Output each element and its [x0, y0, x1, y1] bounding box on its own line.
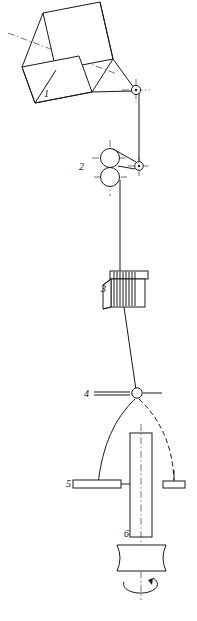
spindle-rotation-arrow [124, 578, 158, 593]
label-2: 2 [79, 161, 84, 172]
heater-body-box [111, 279, 145, 307]
yarn-segment-lower [92, 91, 132, 92]
spindle-whorl [117, 545, 166, 571]
ring-rail-left-plate [73, 480, 121, 488]
label-6: 6 [124, 528, 129, 539]
belt-lower [118, 166, 135, 169]
schematic-diagram: 1 2 3 4 5 6 [0, 0, 197, 621]
bobbin [130, 424, 152, 600]
feed-roller-pair [92, 140, 128, 196]
heater-coil-unit [103, 271, 148, 309]
schematic-canvas: 1 2 3 4 5 6 [0, 0, 197, 621]
label-5: 5 [66, 478, 71, 489]
guide-eye-ring [132, 388, 142, 398]
ring-rail-left-bracket [73, 480, 131, 488]
whorl-body [117, 545, 166, 571]
label-4: 4 [84, 388, 89, 399]
pulley-center [138, 165, 140, 167]
label-1: 1 [44, 88, 49, 99]
guide-eyelet-center [135, 89, 138, 92]
balloon-curve-left [98, 399, 135, 484]
supply-package [8, 2, 117, 103]
balloon-thread-guide [94, 388, 162, 398]
feed-roller-bottom [101, 168, 120, 187]
yarn-heater-to-guide [124, 307, 136, 390]
ring-rail-right-plate [163, 481, 185, 488]
ring-rail-right-traveler [163, 470, 185, 488]
label-3: 3 [100, 283, 106, 294]
package-edge-left [22, 13, 43, 67]
rotation-arrowhead [148, 578, 153, 585]
package-edge-right [92, 59, 113, 92]
